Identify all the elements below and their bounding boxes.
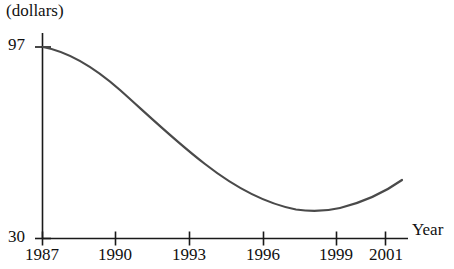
x-axis-tick-label-1996: 1996	[246, 246, 280, 263]
x-axis-tick-label-1999: 1999	[319, 246, 353, 263]
x-axis-tick-label-1987: 1987	[25, 246, 59, 263]
x-axis-tick-label-2001: 2001	[369, 246, 403, 263]
y-axis-tick-label-max: 97	[8, 36, 25, 53]
chart-figure: (dollars) 97 30 1987 1990 1993 1996 1999…	[0, 0, 454, 269]
y-axis-tick-label-min: 30	[8, 228, 25, 245]
y-axis-unit-label: (dollars)	[6, 2, 64, 19]
x-axis-tick-label-1993: 1993	[172, 246, 206, 263]
price-line-series	[43, 47, 402, 211]
plot-area	[0, 0, 454, 269]
x-axis-tick-label-1990: 1990	[98, 246, 132, 263]
x-axis-title: Year	[412, 221, 443, 238]
